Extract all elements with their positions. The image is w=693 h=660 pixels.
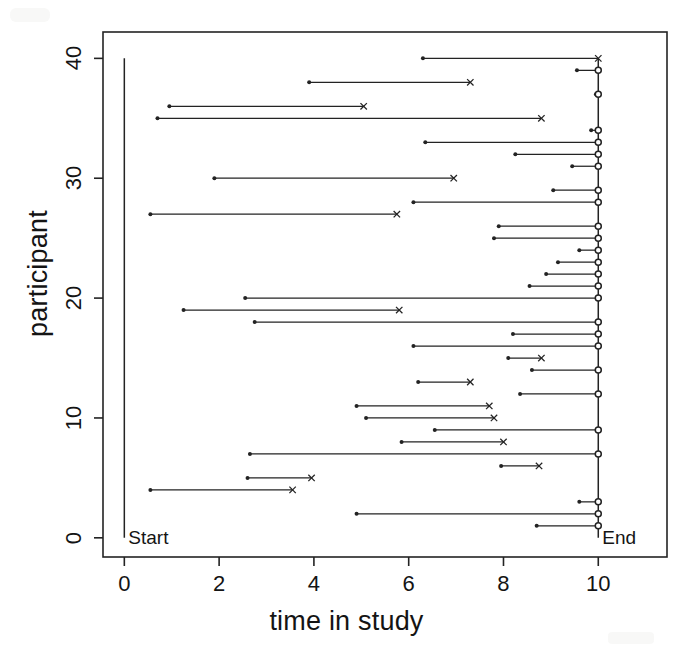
participant-line	[212, 175, 457, 181]
participant-line	[570, 163, 601, 169]
participant-line	[243, 295, 601, 301]
participant-line	[248, 451, 601, 457]
x-tick-label: 0	[99, 571, 149, 597]
participant-line	[421, 55, 602, 61]
participant-followup-lines	[148, 55, 601, 529]
y-axis-title: participant	[23, 174, 54, 374]
participant-line	[556, 259, 601, 265]
participant-line	[530, 367, 601, 373]
y-tick-label: 40	[61, 41, 87, 75]
participant-line	[148, 487, 295, 493]
start-annotation: Start	[128, 527, 168, 549]
participant-line	[307, 79, 473, 85]
participant-line	[577, 247, 601, 253]
x-tick-label: 6	[384, 571, 434, 597]
participant-line	[492, 235, 601, 241]
participant-line	[423, 139, 601, 145]
x-tick-label: 10	[573, 571, 623, 597]
x-tick-label: 2	[194, 571, 244, 597]
y-tick-label: 30	[61, 161, 87, 195]
participant-line	[182, 307, 403, 313]
x-tick-label: 8	[478, 571, 528, 597]
participant-line	[246, 475, 315, 481]
y-tick-label: 0	[61, 521, 87, 555]
participant-line	[544, 271, 601, 277]
participant-line	[400, 439, 507, 445]
participant-line	[433, 427, 602, 433]
participant-line	[411, 199, 601, 205]
participant-line	[497, 223, 602, 229]
participant-line	[528, 283, 602, 289]
x-tick-label: 4	[289, 571, 339, 597]
participant-line	[411, 343, 601, 349]
y-tick-label: 10	[61, 401, 87, 435]
x-axis-title: time in study	[0, 606, 693, 637]
participant-line	[513, 151, 601, 157]
participant-line	[355, 511, 602, 517]
participant-line	[594, 91, 601, 97]
participant-line	[589, 127, 601, 133]
y-tick-label: 20	[61, 281, 87, 315]
plot-canvas	[0, 0, 693, 660]
participant-line	[551, 187, 601, 193]
participant-line	[355, 403, 493, 409]
plot-frame	[103, 32, 667, 557]
survival-followup-chart: participant time in study 010203040 0246…	[0, 0, 693, 660]
participant-line	[167, 103, 367, 109]
participant-line	[577, 499, 601, 505]
end-annotation: End	[602, 527, 636, 549]
participant-line	[535, 523, 602, 529]
participant-line	[506, 355, 544, 361]
participant-line	[575, 67, 601, 73]
participant-line	[416, 379, 473, 385]
participant-line	[253, 319, 602, 325]
participant-line	[511, 331, 601, 337]
participant-line	[499, 463, 542, 469]
participant-line	[364, 415, 497, 421]
participant-line	[156, 115, 545, 121]
participant-line	[518, 391, 601, 397]
participant-line	[148, 211, 400, 217]
